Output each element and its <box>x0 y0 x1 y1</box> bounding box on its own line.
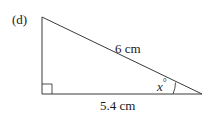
base-label: 5.4 cm <box>100 98 135 113</box>
right-triangle-diagram: (d) 6 cm 5.4 cm x° <box>0 0 212 114</box>
angle-arc <box>173 83 176 95</box>
hypotenuse-label: 6 cm <box>115 41 141 56</box>
angle-label: x° <box>156 77 167 94</box>
right-angle-marker <box>42 84 52 94</box>
part-label: (d) <box>12 12 27 27</box>
degree-symbol: ° <box>163 77 167 88</box>
